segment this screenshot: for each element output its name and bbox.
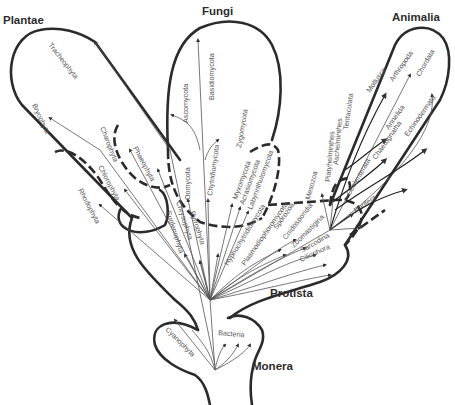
- kingdom-label-fungi: Fungi: [202, 5, 233, 17]
- taxon-label: Charophyta: [98, 125, 120, 163]
- taxon-label: Oomycota: [183, 167, 192, 200]
- taxon-label: Chytridiomycota: [205, 144, 221, 196]
- taxon-label: Zygomycota: [234, 108, 250, 148]
- kingdom-label-plantae: Plantae: [3, 14, 44, 26]
- taxon-label: Mesozoa: [303, 170, 319, 201]
- taxon-label: Ascomycota: [181, 84, 190, 123]
- diagram-canvas: Plantae Fungi Animalia Protista Monera T…: [0, 0, 455, 405]
- taxon-label: Basidiomycota: [207, 53, 216, 100]
- taxon-label: Bacteria: [218, 328, 245, 339]
- phylogeny-diagram: Plantae Fungi Animalia Protista Monera T…: [0, 0, 455, 405]
- plantae-outline: [11, 29, 180, 218]
- kingdom-label-monera: Monera: [252, 360, 294, 372]
- taxon-label: Chordata: [414, 48, 437, 78]
- kingdom-label-protista: Protista: [270, 287, 313, 299]
- porifera-boundary: [350, 210, 385, 235]
- taxon-label: Aschelminthes: [331, 117, 344, 165]
- taxon-label: Rhodophyta: [76, 187, 102, 225]
- kingdom-label-animalia: Animalia: [392, 11, 441, 23]
- taxon-label: Tracheophyta: [46, 41, 80, 81]
